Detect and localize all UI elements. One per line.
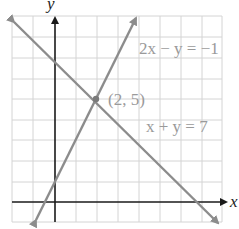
intersection-label: (2, 5) [108, 91, 145, 108]
coordinate-plane [0, 0, 239, 229]
x-axis-label: x [230, 193, 238, 210]
intersection-point [93, 96, 99, 102]
equation-label-2x-minus-y: 2x − y = −1 [139, 40, 219, 57]
y-axis-label: y [47, 0, 55, 12]
equation-label-x-plus-y: x + y = 7 [146, 118, 208, 135]
line-2x-minus-y-eq-neg1 [36, 18, 136, 220]
